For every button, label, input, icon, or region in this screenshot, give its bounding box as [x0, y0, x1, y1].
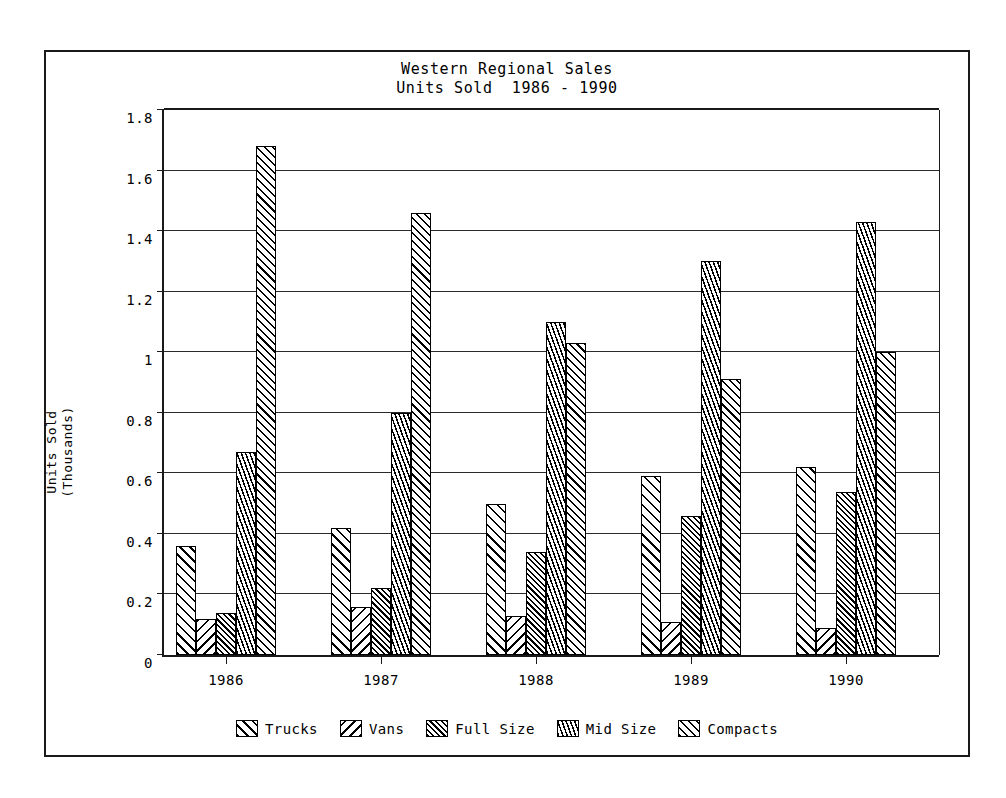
- y-axis-tick-mark: [157, 412, 164, 413]
- hatch-swatch-icon: [236, 720, 258, 737]
- legend-item[interactable]: Mid Size: [557, 720, 657, 737]
- bar[interactable]: [331, 528, 351, 655]
- hatch-swatch-icon: [426, 720, 448, 737]
- bar[interactable]: [796, 467, 816, 655]
- bar[interactable]: [681, 516, 701, 655]
- bar-group: [331, 110, 431, 655]
- bar[interactable]: [721, 379, 741, 655]
- chart-legend: TrucksVansFull SizeMid SizeCompacts: [46, 720, 968, 737]
- bar[interactable]: [816, 628, 836, 655]
- legend-item-label: Full Size: [455, 721, 534, 737]
- bar[interactable]: [506, 616, 526, 655]
- bar[interactable]: [701, 261, 721, 655]
- bar[interactable]: [486, 504, 506, 655]
- y-axis-tick-mark: [157, 109, 164, 110]
- legend-item-label: Vans: [369, 721, 404, 737]
- chart-frame: Western Regional Sales Units Sold 1986 -…: [44, 50, 970, 757]
- chart-subtitle: Units Sold 1986 - 1990: [46, 79, 968, 98]
- y-axis-tick-mark: [157, 533, 164, 534]
- x-axis-tick-mark: [691, 655, 692, 664]
- y-axis-title-line1: Units Sold: [44, 352, 60, 552]
- bar[interactable]: [411, 213, 431, 655]
- y-axis-title-line2: (Thousands): [60, 352, 76, 552]
- x-axis-tick-label: 1988: [518, 672, 554, 688]
- hatch-swatch-icon: [557, 720, 579, 737]
- bar[interactable]: [546, 322, 566, 655]
- x-axis-tick-label: 1990: [828, 672, 864, 688]
- x-axis-tick-label: 1986: [208, 672, 244, 688]
- x-axis-tick-label: 1987: [363, 672, 399, 688]
- x-axis-tick-mark: [846, 655, 847, 664]
- x-axis-tick-mark: [381, 655, 382, 664]
- legend-item[interactable]: Vans: [340, 720, 404, 737]
- bar[interactable]: [351, 607, 371, 655]
- chart-title-block: Western Regional Sales Units Sold 1986 -…: [46, 60, 968, 98]
- bar-group: [486, 110, 586, 655]
- bar[interactable]: [371, 588, 391, 655]
- bar[interactable]: [196, 619, 216, 655]
- plot-area: 00.20.40.60.811.21.41.61.8 1986198719881…: [162, 110, 939, 657]
- y-axis-tick-mark: [157, 291, 164, 292]
- bar[interactable]: [526, 552, 546, 655]
- bar[interactable]: [216, 613, 236, 655]
- bar[interactable]: [391, 413, 411, 655]
- bar[interactable]: [176, 546, 196, 655]
- plot-right-edge: [939, 110, 940, 655]
- hatch-swatch-icon: [678, 720, 700, 737]
- y-axis-tick-mark: [157, 472, 164, 473]
- legend-item[interactable]: Trucks: [236, 720, 318, 737]
- y-axis-tick-mark: [157, 230, 164, 231]
- bar-group: [796, 110, 896, 655]
- y-axis-tick-mark: [157, 170, 164, 171]
- y-axis-tick-mark: [157, 654, 164, 655]
- x-axis-tick-mark: [226, 655, 227, 664]
- bar[interactable]: [876, 352, 896, 655]
- x-axis-tick-label: 1989: [673, 672, 709, 688]
- x-axis-tick-mark: [536, 655, 537, 664]
- bar[interactable]: [641, 476, 661, 655]
- legend-item-label: Compacts: [707, 721, 778, 737]
- hatch-swatch-icon: [340, 720, 362, 737]
- bar-group: [176, 110, 276, 655]
- bar[interactable]: [661, 622, 681, 655]
- chart-title: Western Regional Sales: [46, 60, 968, 79]
- bar-group: [641, 110, 741, 655]
- y-axis-tick-mark: [157, 351, 164, 352]
- legend-item[interactable]: Compacts: [678, 720, 778, 737]
- bar[interactable]: [256, 146, 276, 655]
- bar[interactable]: [566, 343, 586, 655]
- bar[interactable]: [836, 492, 856, 656]
- bar[interactable]: [236, 452, 256, 655]
- legend-item-label: Mid Size: [586, 721, 657, 737]
- legend-item-label: Trucks: [265, 721, 318, 737]
- y-axis-title: Units Sold (Thousands): [44, 352, 75, 552]
- bar[interactable]: [856, 222, 876, 655]
- legend-item[interactable]: Full Size: [426, 720, 534, 737]
- y-axis-tick-mark: [157, 593, 164, 594]
- bars-container: [164, 110, 939, 655]
